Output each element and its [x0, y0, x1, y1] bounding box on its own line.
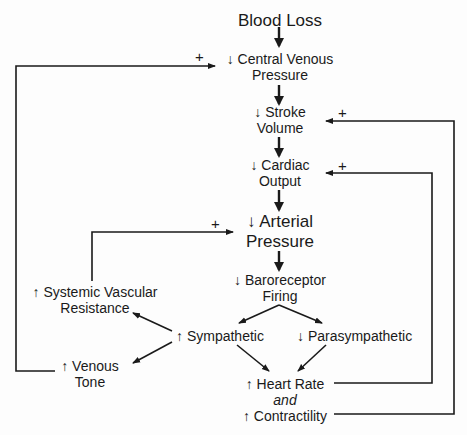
svr-line2: Resistance: [30, 300, 160, 316]
heart-rate-line: ↑ Heart Rate: [235, 376, 335, 392]
plus-sign-stroke-volume-feedback: +: [338, 105, 347, 120]
baroreceptor-line2: Firing: [225, 288, 335, 304]
node-blood-loss: Blood Loss: [230, 11, 330, 31]
arterial-pressure-line2: Pressure: [230, 232, 330, 252]
cvp-line1: ↓ Central Venous: [220, 51, 340, 67]
contractility-line: ↑ Contractility: [235, 408, 335, 424]
parasympathetic-label: ↓ Parasympathetic: [297, 328, 412, 344]
venous-tone-line1: ↑ Venous: [55, 358, 125, 374]
plus-sign-arterial-pressure-feedback: +: [211, 216, 220, 231]
plus-sign-cvp-feedback: +: [195, 49, 204, 64]
svr-line1: ↑ Systemic Vascular: [30, 284, 160, 300]
node-central-venous-pressure: ↓ Central Venous Pressure: [220, 51, 340, 83]
stroke-volume-line2: Volume: [240, 120, 320, 136]
cardiac-output-line2: Output: [240, 173, 320, 189]
node-heart-rate-contractility: ↑ Heart Rate and ↑ Contractility: [235, 376, 335, 424]
arterial-pressure-line1: ↓ Arterial: [230, 212, 330, 232]
node-venous-tone: ↑ Venous Tone: [55, 358, 125, 390]
node-arterial-pressure: ↓ Arterial Pressure: [230, 212, 330, 252]
venous-tone-line2: Tone: [55, 374, 125, 390]
baroreceptor-line1: ↓ Baroreceptor: [225, 272, 335, 288]
and-conjunction: and: [235, 392, 335, 408]
node-systemic-vascular-resistance: ↑ Systemic Vascular Resistance: [30, 284, 160, 316]
sympathetic-label: ↑ Sympathetic: [176, 328, 264, 344]
stroke-volume-line1: ↓ Stroke: [240, 104, 320, 120]
cvp-line2: Pressure: [220, 67, 340, 83]
blood-loss-label: Blood Loss: [238, 11, 322, 30]
node-parasympathetic: ↓ Parasympathetic: [297, 328, 422, 344]
cardiac-output-line1: ↓ Cardiac: [240, 157, 320, 173]
node-sympathetic: ↑ Sympathetic: [176, 328, 278, 344]
node-cardiac-output: ↓ Cardiac Output: [240, 157, 320, 189]
node-stroke-volume: ↓ Stroke Volume: [240, 104, 320, 136]
node-baroreceptor-firing: ↓ Baroreceptor Firing: [225, 272, 335, 304]
plus-sign-cardiac-output-feedback: +: [338, 158, 347, 173]
